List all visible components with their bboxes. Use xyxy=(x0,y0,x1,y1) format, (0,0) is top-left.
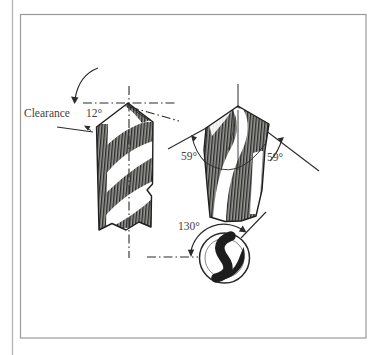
curved-arrow-head-icon xyxy=(71,97,79,105)
end-view: 130° xyxy=(147,212,266,283)
figure-page: Clearance 12° 59° 59° xyxy=(0,0,380,355)
front-view: 59° 59° xyxy=(168,84,319,222)
chisel-edge-angle-value: 130° xyxy=(178,220,200,232)
right-point-angle-value: 59° xyxy=(267,151,284,163)
arc-start-arrow-head-icon xyxy=(188,250,194,257)
clearance-label: Clearance xyxy=(24,107,70,119)
side-view-drill-body xyxy=(96,103,153,231)
side-view: Clearance 12° xyxy=(24,68,179,258)
front-view-drill-body xyxy=(204,106,269,222)
figure-frame xyxy=(21,15,367,339)
drill-geometry-diagram: Clearance 12° 59° 59° xyxy=(0,0,380,355)
curved-arrow xyxy=(75,68,98,99)
left-point-angle-value: 59° xyxy=(181,150,198,162)
clearance-angle-value: 12° xyxy=(86,107,103,119)
